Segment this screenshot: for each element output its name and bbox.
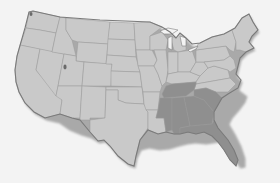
- state-montana[interactable]: [66, 18, 110, 44]
- state-colorado[interactable]: [82, 62, 112, 86]
- state-nebraska[interactable]: [106, 55, 140, 72]
- state-north-dakota[interactable]: [108, 22, 135, 40]
- great-salt-lake: [63, 65, 66, 70]
- state-arkansas[interactable]: [143, 92, 160, 110]
- lake-michigan: [168, 36, 172, 50]
- state-indiana[interactable]: [168, 52, 178, 74]
- state-south-dakota[interactable]: [107, 39, 136, 57]
- state-new-england[interactable]: [232, 14, 258, 52]
- puget-sound: [30, 12, 33, 16]
- state-new-mexico[interactable]: [80, 86, 106, 120]
- state-kansas[interactable]: [111, 71, 142, 87]
- state-wyoming[interactable]: [76, 42, 108, 64]
- us-map: [0, 0, 280, 183]
